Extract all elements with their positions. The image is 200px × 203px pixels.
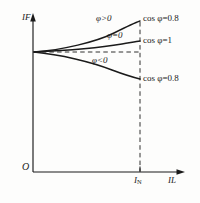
- end-label-phi-zero: cos φ=1: [143, 36, 172, 45]
- x-axis: [33, 169, 185, 175]
- y-axis: [30, 13, 36, 172]
- curve-phi-negative: [34, 52, 140, 79]
- chart-canvas: [0, 0, 200, 203]
- x-tick-label-rated-subscript: N: [137, 178, 142, 185]
- y-axis-label: IF: [22, 13, 31, 22]
- end-label-phi-positive: cos φ=0.8: [143, 14, 179, 23]
- end-label-phi-negative: cos φ=0.8: [143, 74, 179, 83]
- x-tick-label-rated: IN: [134, 176, 142, 186]
- x-axis-label: IL: [168, 176, 176, 185]
- annotation-phi-zero: φ=0: [107, 31, 123, 40]
- x-axis-arrowhead: [177, 169, 186, 175]
- x-axis-label-subscript: L: [171, 175, 176, 185]
- origin-label: O: [22, 162, 29, 172]
- annotation-phi-positive: φ>0: [96, 14, 112, 23]
- v-curve-figure: IF IL IN O φ>0 φ=0 φ<0 cos φ=0.8 cos φ=1…: [0, 0, 200, 203]
- curve-phi-positive: [34, 21, 140, 52]
- annotation-phi-negative: φ<0: [92, 56, 108, 65]
- y-axis-label-subscript: F: [25, 12, 31, 22]
- y-axis-arrowhead: [30, 13, 36, 22]
